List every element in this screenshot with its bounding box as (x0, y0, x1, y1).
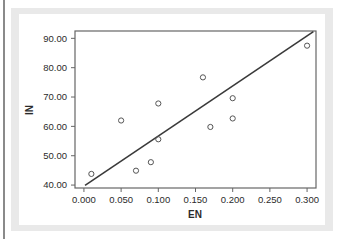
x-tick-label: 0.200 (221, 194, 245, 205)
x-tick-label: 0.300 (295, 194, 319, 205)
x-tick-label: 0.100 (146, 194, 170, 205)
y-tick-label: 90.00 (43, 33, 67, 44)
y-tick-label: 80.00 (43, 62, 67, 73)
x-tick-label: 0.050 (109, 194, 133, 205)
page-left-rule (3, 0, 5, 239)
y-axis-tick-labels: 40.0050.0060.0070.0080.0090.00 (43, 33, 67, 191)
screenshot-root: 0.0000.0500.1000.1500.2000.2500.300 40.0… (0, 0, 339, 239)
y-axis-title: IN (24, 105, 35, 115)
scatter-plot: 0.0000.0500.1000.1500.2000.2500.300 40.0… (19, 14, 325, 225)
x-axis-title: EN (188, 209, 202, 220)
y-tick-label: 70.00 (43, 91, 67, 102)
x-axis-tick-labels: 0.0000.0500.1000.1500.2000.2500.300 (72, 194, 319, 205)
x-tick-label: 0.250 (258, 194, 282, 205)
y-tick-label: 60.00 (43, 121, 67, 132)
x-axis-ticks (84, 188, 307, 192)
y-tick-label: 40.00 (43, 179, 67, 190)
x-tick-label: 0.150 (184, 194, 208, 205)
x-tick-label: 0.000 (72, 194, 96, 205)
figure-panel: 0.0000.0500.1000.1500.2000.2500.300 40.0… (19, 14, 325, 225)
y-tick-label: 50.00 (43, 150, 67, 161)
